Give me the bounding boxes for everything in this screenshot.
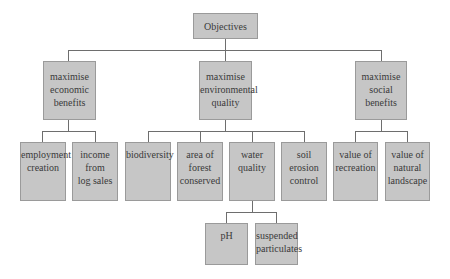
connector — [148, 131, 149, 142]
node-biodiversity: biodiversity — [125, 142, 171, 201]
connector — [42, 131, 95, 132]
node-suspended-particulates: suspended particulates — [255, 223, 298, 265]
node-area-of-forest-conserved: area of forest conserved — [177, 142, 223, 201]
connector — [355, 131, 408, 132]
connector — [68, 50, 69, 61]
connector — [225, 120, 226, 131]
connector — [226, 212, 277, 213]
node-income-from-log-sales: income from log sales — [72, 142, 118, 201]
connector — [252, 201, 253, 212]
connector — [42, 131, 43, 142]
connector — [95, 131, 96, 142]
node-ph: pH — [205, 223, 248, 265]
connector — [68, 120, 69, 131]
node-employment-creation: employment creation — [20, 142, 66, 201]
connector — [200, 131, 201, 142]
connector — [225, 39, 226, 50]
connector — [381, 50, 382, 61]
connector — [407, 131, 408, 142]
node-objectives: Objectives — [193, 13, 258, 39]
node-water-quality: water quality — [229, 142, 275, 201]
node-soil-erosion-control: soil erosion control — [281, 142, 327, 201]
connector — [381, 120, 382, 131]
connector — [225, 50, 226, 61]
connector — [276, 212, 277, 223]
node-value-of-natural-landscape: value of natural landscape — [385, 142, 430, 201]
node-maximise-social-benefits: maximise social benefits — [355, 61, 407, 120]
connector — [148, 131, 305, 132]
connector — [252, 131, 253, 142]
node-maximise-environmental-quality: maximise environmental quality — [199, 61, 252, 120]
node-maximise-economic-benefits: maximise economic benefits — [43, 61, 96, 120]
connector — [304, 131, 305, 142]
connector — [355, 131, 356, 142]
node-value-of-recreation: value of recreation — [333, 142, 378, 201]
connector — [226, 212, 227, 223]
